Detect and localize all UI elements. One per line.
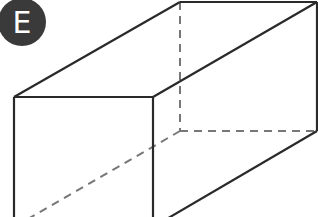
cuboid-figure [0, 0, 318, 217]
hidden-edge-bottom-left-depth [14, 131, 180, 217]
hidden-edges [14, 2, 317, 217]
edge-top-right-depth [153, 2, 317, 97]
visible-edges [14, 2, 317, 217]
badge-letter: E [13, 5, 32, 40]
figure-stage: E [0, 0, 318, 217]
edge-bottom-right-depth [153, 131, 317, 217]
